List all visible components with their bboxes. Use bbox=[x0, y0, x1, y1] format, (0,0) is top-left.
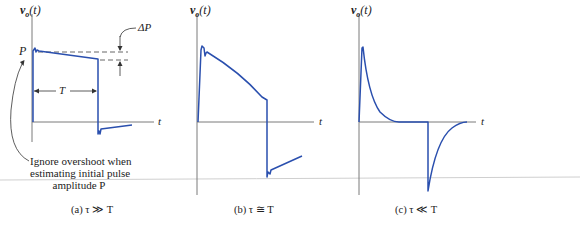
panel-a-note-arrowhead bbox=[20, 60, 25, 66]
panel-c-x-axis-label: t bbox=[481, 115, 484, 127]
panel-c-signal bbox=[359, 47, 467, 191]
panel-b-caption: (b) τ ≅ T bbox=[234, 203, 274, 215]
panel-a-y-axis-label: vo(t) bbox=[20, 3, 41, 19]
note-line-2: estimating initial pulse bbox=[30, 167, 128, 179]
panel-c bbox=[359, 14, 476, 195]
panel-a-width-arrowhead-left bbox=[34, 89, 39, 94]
panel-a-droop-label: ΔP bbox=[138, 21, 151, 33]
panel-b-x-axis-label: t bbox=[319, 115, 322, 127]
panel-a-amplitude-label: P bbox=[19, 44, 26, 59]
panel-a-droop-leader bbox=[120, 28, 136, 37]
panel-a-x-axis-label: t bbox=[158, 115, 161, 127]
pulse-response-diagram bbox=[0, 0, 580, 227]
panel-a-width-label: T bbox=[59, 84, 65, 96]
panel-b-y-axis-label: vo(t) bbox=[190, 3, 211, 19]
panel-b bbox=[197, 14, 314, 195]
panel-a-caption: (a) τ ≫ T bbox=[71, 203, 113, 215]
panel-a-overshoot-note: Ignore overshoot when estimating initial… bbox=[30, 155, 128, 191]
panel-b-signal bbox=[198, 46, 302, 177]
panel-a-droop-arrowhead-top bbox=[118, 46, 123, 51]
note-line-3: amplitude P bbox=[30, 179, 128, 191]
note-line-1: Ignore overshoot when bbox=[30, 155, 128, 167]
panel-c-caption: (c) τ ≪ T bbox=[395, 203, 437, 215]
panel-a-width-arrowhead-right bbox=[92, 89, 97, 94]
panel-c-y-axis-label: vo(t) bbox=[351, 3, 372, 19]
panel-a-droop-arrowhead-bottom bbox=[118, 61, 123, 66]
panel-a bbox=[11, 14, 154, 161]
panel-a-note-leader bbox=[11, 64, 29, 161]
